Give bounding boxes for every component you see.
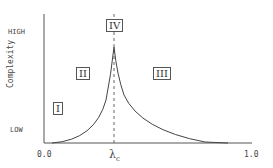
complexity-chart — [0, 0, 273, 168]
region-label-iv: IV — [106, 19, 123, 32]
y-tick-low: LOW — [10, 126, 23, 134]
region-label-ii: II — [76, 67, 90, 80]
y-axis-label: Complexity — [6, 40, 15, 88]
x-tick-start: 0.0 — [37, 150, 51, 159]
region-label-iii: III — [153, 67, 171, 80]
y-tick-high: HIGH — [8, 28, 25, 36]
region-label-i: I — [53, 102, 63, 115]
x-tick-end: 1.0 — [244, 150, 258, 159]
complexity-curve-left — [52, 47, 114, 143]
complexity-curve-right — [114, 47, 228, 143]
x-tick-critical: λc — [109, 148, 120, 163]
